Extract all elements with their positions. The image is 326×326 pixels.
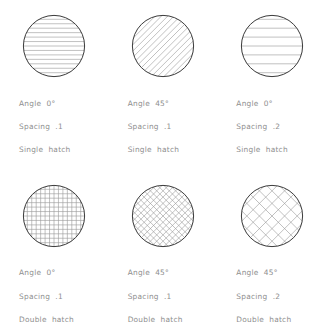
hatch-caption-1: Angle 0° Spacing .1 Single hatch xyxy=(0,84,109,170)
caption-angle-5: Angle 45° xyxy=(128,269,218,277)
caption-spacing-5: Spacing .1 xyxy=(128,293,218,301)
hatch-svg-1 xyxy=(21,13,87,79)
caption-type-6: Double hatch xyxy=(236,316,326,324)
caption-spacing-4: Spacing .1 xyxy=(19,293,109,301)
hatch-sample-2: Angle 45° Spacing .1 Single hatch xyxy=(109,0,218,170)
hatch-swatch-circle-6 xyxy=(239,183,305,249)
caption-type-4: Double hatch xyxy=(19,316,109,324)
hatch-swatch-circle-3 xyxy=(239,13,305,79)
hatch-caption-4: Angle 0° Spacing .1 Double hatch xyxy=(0,254,109,326)
hatch-line xyxy=(128,11,198,81)
hatch-sample-4: Angle 0° Spacing .1 Double hatch xyxy=(0,170,109,326)
hatch-sample-3: Angle 0° Spacing .2 Single hatch xyxy=(217,0,326,170)
hatch-line xyxy=(118,1,188,71)
hatch-caption-6: Angle 45° Spacing .2 Double hatch xyxy=(217,254,326,326)
hatch-lines-3 xyxy=(222,2,321,91)
caption-angle-3: Angle 0° xyxy=(236,100,326,108)
hatch-caption-3: Angle 0° Spacing .2 Single hatch xyxy=(217,84,326,170)
hatch-line xyxy=(128,181,198,251)
caption-angle-1: Angle 0° xyxy=(19,100,109,108)
hatch-lines-1 xyxy=(5,10,104,81)
hatch-svg-5 xyxy=(130,183,196,249)
hatch-line xyxy=(122,5,192,75)
caption-type-5: Double hatch xyxy=(128,316,218,324)
hatch-sample-5: Angle 45° Spacing .1 Double hatch xyxy=(109,170,218,326)
hatch-line xyxy=(237,181,307,251)
hatch-svg-3 xyxy=(239,13,305,79)
hatch-swatch-circle-5 xyxy=(130,183,196,249)
caption-angle-4: Angle 0° xyxy=(19,269,109,277)
caption-type-3: Single hatch xyxy=(236,146,326,154)
caption-angle-6: Angle 45° xyxy=(236,269,326,277)
hatch-caption-2: Angle 45° Spacing .1 Single hatch xyxy=(109,84,218,170)
hatch-line xyxy=(134,17,204,87)
hatch-sample-6: Angle 45° Spacing .2 Double hatch xyxy=(217,170,326,326)
hatch-svg-4 xyxy=(21,183,87,249)
hatch-line xyxy=(137,20,207,90)
hatch-swatch-circle-1 xyxy=(21,13,87,79)
caption-spacing-1: Spacing .1 xyxy=(19,123,109,131)
hatch-swatch-circle-2 xyxy=(130,13,196,79)
caption-type-1: Single hatch xyxy=(19,146,109,154)
hatch-sample-1: Angle 0° Spacing .1 Single hatch xyxy=(0,0,109,170)
caption-type-2: Single hatch xyxy=(128,146,218,154)
caption-spacing-6: Spacing .2 xyxy=(236,293,326,301)
hatch-caption-5: Angle 45° Spacing .1 Double hatch xyxy=(109,254,218,326)
hatch-svg-6 xyxy=(239,183,305,249)
hatch-svg-2 xyxy=(130,13,196,79)
hatch-lines-4 xyxy=(5,166,104,265)
hatch-swatch-circle-4 xyxy=(21,183,87,249)
caption-angle-2: Angle 45° xyxy=(128,100,218,108)
caption-spacing-2: Spacing .1 xyxy=(128,123,218,131)
caption-spacing-3: Spacing .2 xyxy=(236,123,326,131)
